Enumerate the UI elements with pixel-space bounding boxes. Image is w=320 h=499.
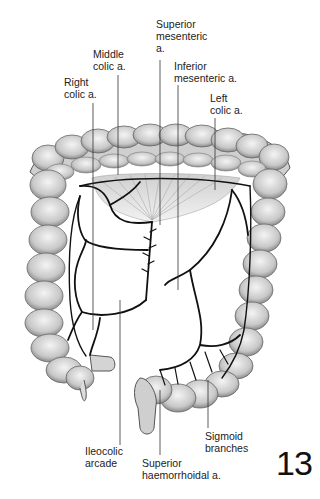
descending-colon <box>205 169 287 397</box>
label-ileocolic-arcade: Ileocolic arcade <box>85 445 123 469</box>
label-superior-mesenteric-artery: Superior mesenteric a. <box>156 18 207 54</box>
label-inferior-mesenteric-artery: Inferior mesenteric a. <box>174 60 237 84</box>
terminal-ileum <box>90 355 115 371</box>
ascending-colon <box>25 170 94 390</box>
label-sigmoid-branches: Sigmoid branches <box>205 430 248 454</box>
label-middle-colic-artery: Middle colic a. <box>93 48 126 72</box>
label-right-colic-artery: Right colic a. <box>64 76 97 100</box>
anatomy-diagram: Superior mesenteric a. Middle colic a. R… <box>0 0 320 499</box>
label-left-colic-artery: Left colic a. <box>210 92 243 116</box>
colon-illustration <box>0 0 320 499</box>
label-superior-haemorrhoidal-artery: Superior haemorrhoidal a. <box>142 457 221 481</box>
figure-number: 13 <box>276 444 312 483</box>
